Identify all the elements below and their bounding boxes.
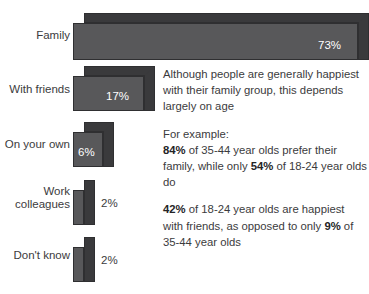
bar-work-colleagues xyxy=(73,180,95,225)
bar-with-friends-top-face xyxy=(84,66,155,76)
commentary-paragraph-3: 42% of 18-24 year olds are happiest with… xyxy=(163,201,367,250)
category-label-dont-know: Don't know xyxy=(0,249,70,262)
bar-value-dont-know: 2% xyxy=(101,254,118,266)
bar-family-front-face xyxy=(73,23,358,60)
bar-family: 73% xyxy=(73,13,369,60)
bar-value-with-friends: 17% xyxy=(106,90,129,102)
chart-canvas: Family 73% With friends 17% On your own … xyxy=(0,0,369,294)
stat-42-context: of 18-24 year olds are happiest with fri… xyxy=(163,203,345,231)
category-label-family: Family xyxy=(0,29,70,42)
bar-value-work-colleagues: 2% xyxy=(101,197,118,209)
category-label-work-colleagues: Work colleagues xyxy=(0,185,70,211)
commentary-paragraph-2: For example: 84% of 35-44 year olds pref… xyxy=(163,126,367,191)
bar-dont-know-front-face xyxy=(73,247,84,282)
stat-9-percent: 9% xyxy=(324,220,340,232)
category-label-on-your-own: On your own xyxy=(0,138,70,151)
commentary-lead-in: For example: xyxy=(163,128,229,140)
bar-work-colleagues-front-face xyxy=(73,190,84,225)
bar-value-on-your-own: 6% xyxy=(78,146,95,158)
bar-family-top-face xyxy=(84,13,369,23)
commentary-panel: Although people are generally happiest w… xyxy=(163,66,367,250)
stat-84-percent: 84% xyxy=(163,144,186,156)
stat-54-percent: 54% xyxy=(251,160,274,172)
commentary-paragraph-1: Although people are generally happiest w… xyxy=(163,66,367,115)
category-label-with-friends: With friends xyxy=(0,83,70,96)
bar-on-your-own: 6% xyxy=(73,122,114,167)
bar-dont-know xyxy=(73,237,95,282)
bar-with-friends: 17% xyxy=(73,66,155,111)
bar-value-family: 73% xyxy=(318,39,341,51)
stat-42-percent: 42% xyxy=(163,203,186,215)
